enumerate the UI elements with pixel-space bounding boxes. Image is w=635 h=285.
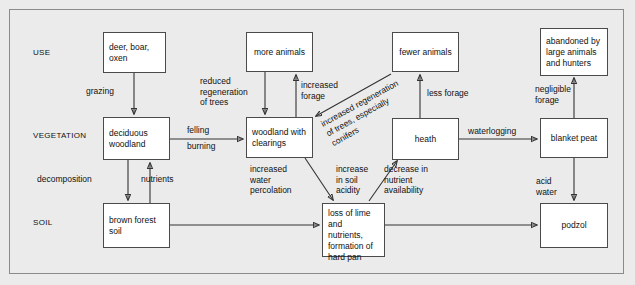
edge-label-reduced-regeneration: reduced regeneration of trees: [200, 76, 248, 108]
node-deciduous-woodland[interactable]: deciduous woodland: [103, 117, 170, 160]
row-label-use: USE: [33, 48, 50, 57]
edge-label-negligible-forage: negligible forage: [535, 84, 571, 105]
row-label-vegetation: VEGETATION: [33, 131, 86, 140]
edge-label-waterlogging: waterlogging: [468, 126, 516, 137]
edge-label-acid-water: acid water: [536, 176, 557, 197]
node-brown-forest-soil[interactable]: brown forest soil: [103, 203, 170, 248]
node-blanket-peat[interactable]: blanket peat: [540, 118, 608, 158]
node-deer-boar-oxen[interactable]: deer, boar, oxen: [103, 32, 166, 73]
edge-label-burning: burning: [187, 141, 215, 152]
edge-label-decomposition: decomposition: [37, 174, 92, 185]
node-loss-of-lime[interactable]: loss of lime and nutrients, formation of…: [322, 203, 385, 257]
node-podzol[interactable]: podzol: [540, 203, 608, 248]
node-heath[interactable]: heath: [392, 118, 459, 160]
edge-label-nutrients: nutrients: [141, 174, 174, 185]
edge-label-felling: felling: [187, 125, 209, 136]
edge-label-increased-water-percolation: increased water percolation: [250, 164, 292, 196]
edge-label-decrease-nutrient-availability: decrease in nutrient availability: [384, 164, 428, 196]
edge-label-less-forage: less forage: [427, 88, 469, 99]
edge-label-increased-forage: increased forage: [301, 80, 338, 101]
node-more-animals[interactable]: more animals: [246, 32, 313, 72]
node-abandoned-by-large-animals[interactable]: abandoned by large animals and hunters: [540, 28, 608, 76]
diagram-frame: [9, 9, 624, 274]
node-fewer-animals[interactable]: fewer animals: [392, 32, 459, 72]
diagram-canvas: USE VEGETATION SOIL deer, boar, oxen mor…: [0, 0, 635, 285]
edge-label-grazing: grazing: [86, 86, 114, 97]
node-woodland-with-clearings[interactable]: woodland with clearings: [246, 117, 313, 158]
edge-label-increase-in-soil-acidity: increase in soil acidity: [336, 164, 368, 196]
row-label-soil: SOIL: [33, 218, 52, 227]
